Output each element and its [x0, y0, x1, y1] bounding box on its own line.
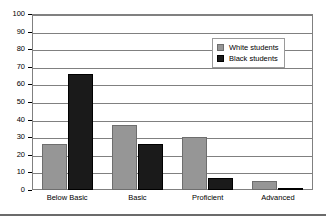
x-axis-tick-label: Basic [128, 194, 146, 202]
chart-legend: White students Black students [212, 38, 285, 68]
gridline [33, 68, 312, 69]
y-axis-tick-mark [28, 190, 32, 191]
y-axis-tick-mark [28, 137, 32, 138]
x-axis-tick-label: Advanced [261, 194, 294, 202]
gridline [33, 173, 312, 174]
legend-label-black-students: Black students [229, 55, 278, 63]
x-axis-tick-label: Proficient [192, 194, 223, 202]
y-axis-tick-mark [28, 49, 32, 50]
y-axis-tick-mark [28, 120, 32, 121]
y-axis-tick-label: 30 [17, 133, 25, 141]
bar-chart: 0102030405060708090100 Below BasicBasicP… [0, 0, 326, 222]
gridline [33, 121, 312, 122]
legend-swatch-black-students-icon [217, 55, 224, 62]
y-axis-tick-label: 10 [17, 169, 25, 177]
y-axis-tick-label: 0 [21, 186, 25, 194]
y-axis-tick-label: 70 [17, 63, 25, 71]
gridline [33, 156, 312, 157]
y-axis-tick-label: 40 [17, 116, 25, 124]
bottom-divider [0, 214, 326, 216]
legend-label-white-students: White students [229, 44, 279, 52]
y-axis-tick-label: 80 [17, 45, 25, 53]
x-axis-tick-label: Below Basic [47, 194, 88, 202]
y-axis-tick-mark [28, 172, 32, 173]
gridline [33, 85, 312, 86]
legend-swatch-white-students-icon [217, 44, 224, 51]
y-axis-tick-mark [28, 67, 32, 68]
y-axis-tick-label: 50 [17, 98, 25, 106]
y-axis-tick-label: 90 [17, 28, 25, 36]
gridline [33, 103, 312, 104]
y-axis: 0102030405060708090100 [0, 14, 28, 190]
y-axis-tick-mark [28, 32, 32, 33]
y-axis-tick-mark [28, 155, 32, 156]
y-axis-tick-label: 60 [17, 81, 25, 89]
x-axis: Below BasicBasicProficientAdvanced [32, 192, 313, 208]
y-axis-tick-label: 100 [12, 10, 25, 18]
y-axis-tick-label: 20 [17, 151, 25, 159]
gridline [33, 33, 312, 34]
y-axis-tick-mark [28, 84, 32, 85]
y-axis-tick-mark [28, 102, 32, 103]
legend-item-white-students: White students [217, 42, 279, 53]
gridline [33, 15, 312, 16]
legend-item-black-students: Black students [217, 53, 279, 64]
y-axis-tick-mark [28, 14, 32, 15]
gridline [33, 138, 312, 139]
